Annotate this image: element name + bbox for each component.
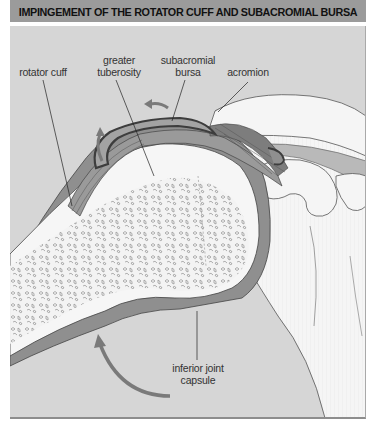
label-acromion: acromion: [220, 66, 276, 78]
illustration-panel: rotator cuff greater tuberosity subacrom…: [10, 26, 366, 419]
label-subacromial-bursa-line2: bursa: [168, 66, 208, 78]
label-inferior-joint-capsule-line2: capsule: [174, 374, 222, 386]
label-greater-tuberosity-line1: greater: [96, 54, 142, 66]
arrow-up-icon: [96, 127, 105, 136]
title-bar: IMPINGEMENT OF THE ROTATOR CUFF AND SUBA…: [10, 0, 366, 22]
label-greater-tuberosity-line2: tuberosity: [94, 66, 144, 78]
arrow-left-icon: [144, 99, 152, 109]
label-rotator-cuff: rotator cuff: [12, 66, 74, 78]
humerus-bone: [10, 144, 259, 356]
label-subacromial-bursa-line1: subacromial: [160, 54, 216, 66]
figure-frame: IMPINGEMENT OF THE ROTATOR CUFF AND SUBA…: [10, 0, 366, 418]
arrow-curved-up-icon: [94, 334, 106, 348]
figure-title: IMPINGEMENT OF THE ROTATOR CUFF AND SUBA…: [19, 5, 358, 18]
label-inferior-joint-capsule-line1: inferior joint: [166, 362, 230, 374]
shoulder-illustration: [10, 26, 366, 418]
